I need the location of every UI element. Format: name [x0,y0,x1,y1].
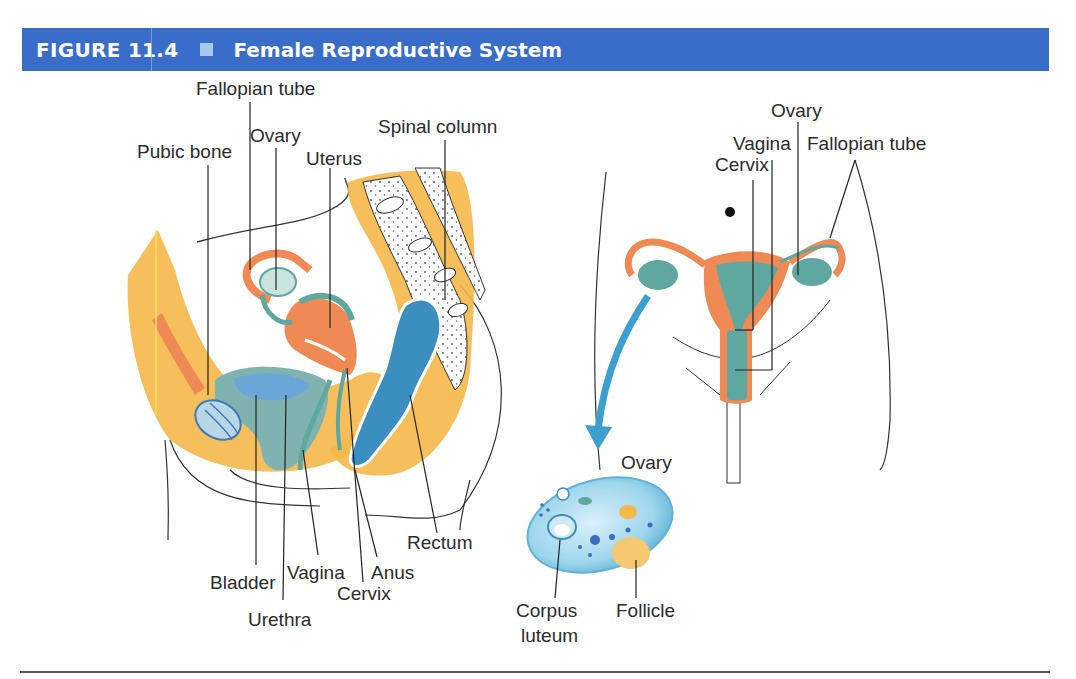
label-frontal-ovary: Ovary [771,101,822,120]
label-pubic-bone: Pubic bone [137,142,232,161]
anatomy-diagram [0,0,1076,679]
label-rectum: Rectum [407,533,472,552]
frontal-view [585,122,890,483]
label-corpus-luteum-1: Corpus [516,601,577,620]
label-follicle: Follicle [616,601,675,620]
label-frontal-cervix: Cervix [715,155,769,174]
label-ovary: Ovary [250,126,301,145]
label-cervix: Cervix [337,584,391,603]
bottom-rule [20,671,1050,673]
label-urethra: Urethra [248,610,311,629]
ovary-detail [517,462,683,598]
label-detail-ovary: Ovary [621,453,672,472]
label-fallopian-tube: Fallopian tube [196,79,315,98]
label-spinal-column: Spinal column [378,117,497,136]
label-corpus-luteum-2: luteum [521,626,578,645]
label-anus: Anus [371,563,414,582]
sagittal-view [128,102,502,600]
label-uterus: Uterus [306,149,362,168]
label-frontal-vagina: Vagina [733,134,791,153]
label-vagina: Vagina [287,563,345,582]
label-frontal-fallopian-tube: Fallopian tube [807,134,926,153]
label-bladder: Bladder [210,573,276,592]
